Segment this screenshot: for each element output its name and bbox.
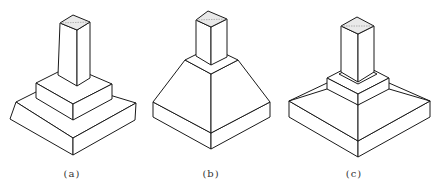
caption-a: (a) [52,168,92,179]
caption-c: (c) [334,168,374,179]
footing-diagram [0,0,432,192]
panel-b-column [196,11,227,65]
panel-b-sloped-footing [153,11,270,149]
panel-a-column [58,15,90,86]
panel-c-column [341,17,374,82]
caption-b: (b) [191,168,231,179]
panel-a-stepped-footing [10,15,136,155]
panel-c-pedestal-footing [289,17,430,157]
